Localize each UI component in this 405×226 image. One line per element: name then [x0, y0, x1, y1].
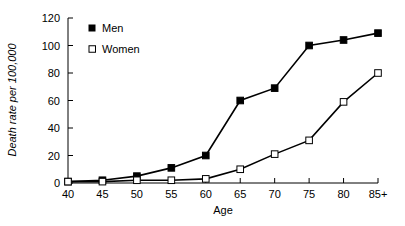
y-axis-title: Death rate per 100,000 [6, 43, 18, 157]
legend-marker-men [89, 25, 95, 31]
data-point-marker [134, 177, 141, 184]
y-axis-ticks [68, 18, 73, 183]
legend-label-men: Men [102, 22, 123, 34]
x-tick-label: 55 [165, 188, 177, 200]
x-tick-label: 80 [337, 188, 349, 200]
data-point-marker [237, 166, 244, 173]
data-point-marker [271, 151, 278, 158]
data-point-marker [340, 37, 347, 44]
data-point-marker [237, 97, 244, 104]
y-tick-label: 60 [48, 95, 60, 107]
series-line [68, 33, 378, 182]
y-tick-label: 20 [48, 150, 60, 162]
x-tick-label: 65 [234, 188, 246, 200]
chart-legend: MenWomen [89, 22, 140, 55]
y-axis: 020406080100120 Death rate per 100,000 [6, 12, 73, 189]
data-point-marker [375, 30, 382, 37]
data-point-marker [99, 178, 106, 185]
x-axis-tick-labels: 40455055606570758085+ [62, 188, 387, 200]
y-tick-label: 0 [54, 177, 60, 189]
y-tick-label: 80 [48, 67, 60, 79]
x-tick-label: 45 [96, 188, 108, 200]
data-point-marker [202, 152, 209, 159]
data-point-marker [65, 178, 72, 185]
x-axis-title: Age [213, 204, 233, 216]
x-tick-label: 60 [200, 188, 212, 200]
x-axis: 40455055606570758085+ Age [62, 178, 387, 216]
y-tick-label: 100 [42, 40, 60, 52]
death-rate-by-age-line-chart: 020406080100120 Death rate per 100,000 4… [0, 0, 405, 226]
data-point-marker [306, 137, 313, 144]
x-tick-label: 40 [62, 188, 74, 200]
y-tick-label: 40 [48, 122, 60, 134]
x-tick-label: 70 [269, 188, 281, 200]
y-tick-label: 120 [42, 12, 60, 24]
data-point-marker [340, 99, 347, 106]
data-point-marker [202, 176, 209, 183]
legend-label-women: Women [102, 43, 140, 55]
data-point-marker [271, 85, 278, 92]
x-tick-label: 75 [303, 188, 315, 200]
data-point-marker [306, 42, 313, 49]
chart-svg: 020406080100120 Death rate per 100,000 4… [0, 0, 405, 226]
data-point-marker [168, 177, 175, 184]
x-tick-label: 50 [131, 188, 143, 200]
legend-marker-women [89, 46, 96, 53]
y-axis-tick-labels: 020406080100120 [42, 12, 60, 189]
x-tick-label: 85+ [369, 188, 388, 200]
data-point-marker [375, 70, 382, 77]
data-point-marker [168, 165, 175, 172]
